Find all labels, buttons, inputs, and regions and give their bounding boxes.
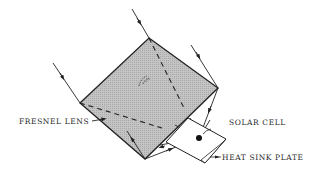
heat-sink-plate-label: HEAT SINK PLATE	[222, 153, 304, 162]
fresnel-concentrator-diagram: FRESNEL LENS SOLAR CELL HEAT SINK PLATE	[0, 0, 326, 174]
solar-cell-label: SOLAR CELL	[229, 118, 286, 127]
fresnel-lens-label: FRESNEL LENS	[19, 117, 89, 126]
